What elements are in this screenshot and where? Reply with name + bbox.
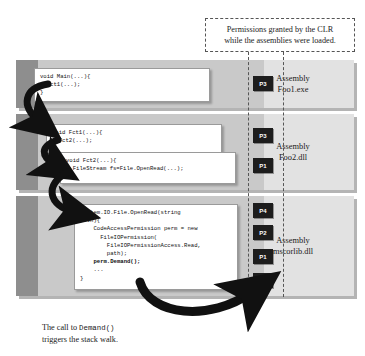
callout-guide-left — [248, 52, 249, 297]
panel-band-dark — [16, 196, 38, 296]
diagram-canvas: Permissions granted by the CLR while the… — [0, 0, 365, 356]
code-block-fct1: void Fct1(...){ Fct2(...); } — [46, 124, 222, 154]
permissions-callout: Permissions granted by the CLR while the… — [205, 18, 355, 52]
code-demand-call: perm.Demand(); — [93, 258, 140, 265]
assembly-label-top: Assembly — [276, 141, 310, 153]
assembly-label-top: Assembly — [276, 235, 310, 247]
callout-line-2: while the assemblies were loaded. — [224, 35, 336, 47]
caption-line-2: triggers the stack walk. — [42, 335, 118, 344]
panel-band-dark — [16, 114, 38, 190]
caption-demand-code: Demand() — [79, 324, 114, 332]
code-block-openread: System.IO.File.OpenRead(string path){ Co… — [74, 204, 238, 290]
permission-badge-p4-mscorlib: P4 — [253, 203, 273, 218]
caption-before: The call to — [42, 323, 79, 332]
code-block-main: void Main(...){ Fct1(...); } — [34, 68, 210, 102]
permission-badge-p3-foo1: P3 — [253, 76, 273, 91]
permission-badge-p2-mscorlib: P2 — [253, 225, 273, 240]
code-openread-tail: ... } — [80, 266, 104, 281]
code-openread-head: System.IO.File.OpenRead(string path){ Co… — [80, 209, 201, 265]
code-block-fct2: void Fct2(...){ FileStream fs=File.OpenR… — [60, 152, 236, 184]
callout-guide-right — [283, 52, 284, 297]
permission-badge-p1-mscorlib: P1 — [253, 249, 273, 264]
stack-walk-caption: The call to Demand() triggers the stack … — [42, 322, 202, 345]
permission-badge-p3-foo2: P3 — [253, 128, 273, 143]
assembly-label-name: mscorlib.dll — [273, 246, 313, 258]
permission-badge-p1-foo2: P1 — [253, 158, 273, 173]
assembly-label-foo2: Assembly Foo2.dll — [248, 114, 338, 190]
callout-line-1: Permissions granted by the CLR — [227, 24, 333, 36]
assembly-label-top: Assembly — [276, 73, 310, 85]
permission-badge-p3-mscorlib: P3 — [253, 273, 273, 288]
